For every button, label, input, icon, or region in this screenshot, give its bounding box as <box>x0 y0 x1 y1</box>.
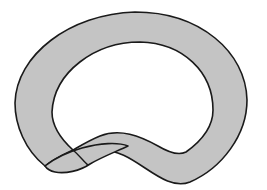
figure-canvas <box>0 0 267 190</box>
band-main-surface <box>15 12 247 184</box>
mobius-band-illustration <box>0 0 267 190</box>
